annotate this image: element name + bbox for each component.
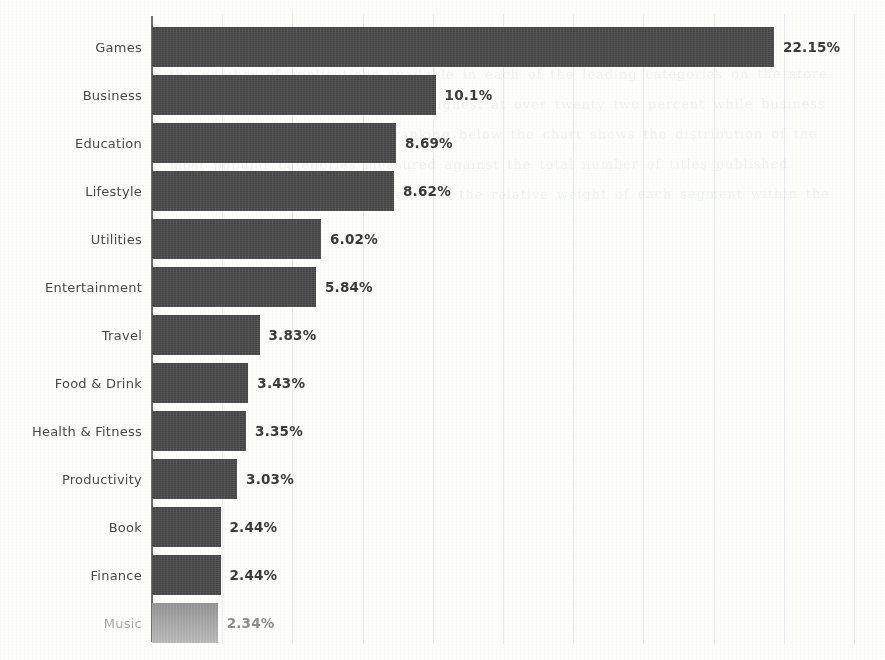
bar-row[interactable]: Entertainment5.84%	[152, 267, 868, 307]
value-label: 2.44%	[230, 567, 278, 583]
chart-plot-area: Games22.15%Business10.1%Education8.69%Li…	[152, 14, 868, 644]
bar-row[interactable]: Music2.34%	[152, 603, 868, 643]
bar-row[interactable]: Games22.15%	[152, 27, 868, 67]
bar-row[interactable]: Productivity3.03%	[152, 459, 868, 499]
category-label: Education	[75, 136, 142, 151]
category-label: Productivity	[62, 472, 142, 487]
value-label: 2.44%	[230, 519, 278, 535]
bar[interactable]	[152, 75, 436, 115]
bar[interactable]	[152, 27, 774, 67]
scan-wrapper: the number of applications available in …	[0, 0, 885, 660]
value-label: 3.83%	[269, 327, 317, 343]
category-label: Travel	[102, 328, 142, 343]
bar[interactable]	[152, 171, 394, 211]
value-label: 22.15%	[783, 39, 840, 55]
bar[interactable]	[152, 555, 221, 595]
bar-row[interactable]: Education8.69%	[152, 123, 868, 163]
value-label: 3.03%	[246, 471, 294, 487]
bar-row[interactable]: Health & Fitness3.35%	[152, 411, 868, 451]
category-label: Entertainment	[45, 280, 142, 295]
value-label: 5.84%	[325, 279, 373, 295]
bar[interactable]	[152, 315, 260, 355]
category-label: Finance	[91, 568, 142, 583]
value-label: 2.34%	[227, 615, 275, 631]
bar[interactable]	[152, 603, 218, 643]
bar-row[interactable]: Travel3.83%	[152, 315, 868, 355]
category-label: Health & Fitness	[32, 424, 142, 439]
bar-row[interactable]: Utilities6.02%	[152, 219, 868, 259]
chart-page: the number of applications available in …	[0, 0, 885, 660]
category-label: Business	[83, 88, 142, 103]
category-label: Book	[109, 520, 142, 535]
bar-row[interactable]: Food & Drink3.43%	[152, 363, 868, 403]
value-label: 8.62%	[403, 183, 451, 199]
value-label: 10.1%	[445, 87, 493, 103]
bar-row[interactable]: Finance2.44%	[152, 555, 868, 595]
bar-row[interactable]: Lifestyle8.62%	[152, 171, 868, 211]
value-label: 6.02%	[330, 231, 378, 247]
category-label: Lifestyle	[85, 184, 142, 199]
bar[interactable]	[152, 123, 396, 163]
bar-row[interactable]: Book2.44%	[152, 507, 868, 547]
category-label: Music	[104, 616, 142, 631]
category-label: Utilities	[91, 232, 142, 247]
value-label: 3.43%	[257, 375, 305, 391]
bar[interactable]	[152, 411, 246, 451]
category-label: Food & Drink	[55, 376, 142, 391]
bar[interactable]	[152, 363, 248, 403]
bar[interactable]	[152, 459, 237, 499]
bar[interactable]	[152, 267, 316, 307]
value-label: 8.69%	[405, 135, 453, 151]
value-label: 3.35%	[255, 423, 303, 439]
bar-row[interactable]: Business10.1%	[152, 75, 868, 115]
bar[interactable]	[152, 507, 221, 547]
bar[interactable]	[152, 219, 321, 259]
category-label: Games	[95, 40, 142, 55]
